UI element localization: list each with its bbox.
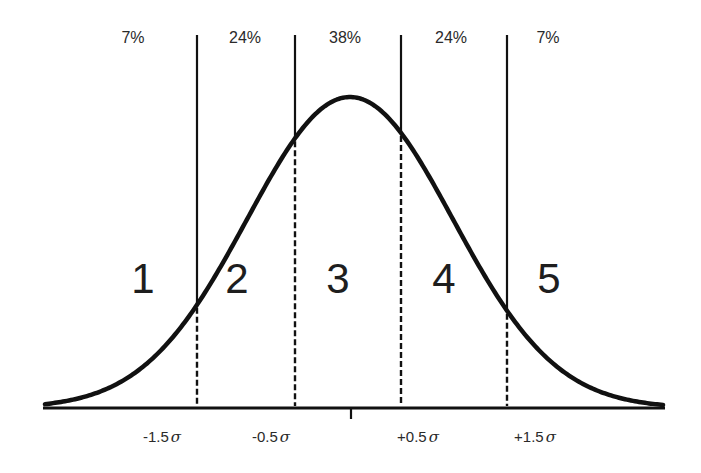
bell-curve: [45, 97, 663, 405]
sigma-label-plus-0-5: +0.5σ: [397, 429, 439, 445]
region-number-5: 5: [537, 258, 560, 300]
percent-label-region-2: 24%: [229, 30, 261, 46]
percent-label-region-3: 38%: [329, 30, 361, 46]
region-number-2: 2: [225, 258, 248, 300]
sigma-value: -1.5: [143, 428, 169, 445]
percent-label-region-5: 7%: [536, 30, 559, 46]
sigma-value: +1.5: [514, 428, 544, 445]
region-number-4: 4: [432, 258, 455, 300]
sigma-label-plus-1-5: +1.5σ: [514, 429, 556, 445]
sigma-symbol: σ: [546, 428, 556, 446]
region-number-1: 1: [131, 258, 154, 300]
sigma-label-minus-1-5: -1.5σ: [143, 429, 181, 445]
normal-distribution-diagram: [0, 0, 701, 473]
sigma-symbol: σ: [280, 428, 290, 446]
percent-label-region-4: 24%: [435, 30, 467, 46]
sigma-value: +0.5: [397, 428, 427, 445]
sigma-symbol: σ: [429, 428, 439, 446]
sigma-value: -0.5: [252, 428, 278, 445]
sigma-symbol: σ: [171, 428, 181, 446]
sigma-boundary-lines: [197, 35, 507, 406]
region-number-3: 3: [326, 258, 349, 300]
percent-label-region-1: 7%: [121, 30, 144, 46]
sigma-label-minus-0-5: -0.5σ: [252, 429, 290, 445]
